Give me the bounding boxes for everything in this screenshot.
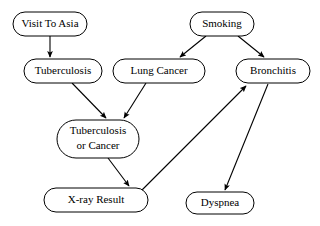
- node-lung_cancer[interactable]: Lung Cancer: [113, 59, 205, 83]
- edge-tuberculosis_or_cancer-to-xray_result: [108, 158, 129, 186]
- node-label-bronchitis: Bronchitis: [250, 64, 296, 76]
- node-dyspnea[interactable]: Dyspnea: [186, 192, 254, 214]
- edge-lung_cancer-to-tuberculosis_or_cancer: [124, 83, 146, 118]
- node-tuberculosis_or_cancer[interactable]: Tuberculosisor Cancer: [57, 120, 139, 158]
- diagram-canvas: Visit To AsiaSmokingTuberculosisLung Can…: [0, 0, 320, 226]
- node-label-tuberculosis_or_cancer: Tuberculosis: [70, 124, 126, 136]
- bayesian-network-graph: Visit To AsiaSmokingTuberculosisLung Can…: [0, 0, 320, 226]
- edge-smoking-to-lung_cancer: [180, 36, 206, 57]
- node-visit_to_asia[interactable]: Visit To Asia: [13, 12, 87, 36]
- edge-smoking-to-bronchitis: [238, 36, 264, 57]
- edge-tuberculosis-to-tuberculosis_or_cancer: [72, 83, 106, 118]
- node-smoking[interactable]: Smoking: [190, 12, 254, 36]
- edge-tuberculosis_or_cancer-to-bronchitis: [142, 86, 246, 190]
- node-tuberculosis[interactable]: Tuberculosis: [24, 59, 102, 83]
- node-label-xray_result: X-ray Result: [68, 193, 125, 205]
- node-label-dyspnea: Dyspnea: [201, 196, 240, 208]
- node-label-visit_to_asia: Visit To Asia: [21, 17, 78, 29]
- node-label-smoking: Smoking: [202, 17, 242, 29]
- node-xray_result[interactable]: X-ray Result: [44, 188, 148, 212]
- node-label-lung_cancer: Lung Cancer: [130, 64, 187, 76]
- node-label-tuberculosis: Tuberculosis: [35, 64, 91, 76]
- node-label-tuberculosis_or_cancer: or Cancer: [76, 139, 119, 151]
- nodes-layer: Visit To AsiaSmokingTuberculosisLung Can…: [13, 12, 310, 214]
- node-bronchitis[interactable]: Bronchitis: [236, 59, 310, 83]
